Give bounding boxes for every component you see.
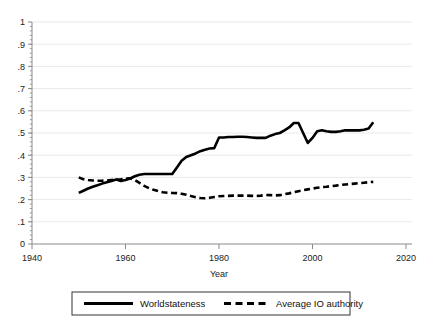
x-tick-label: 1980 (209, 253, 229, 263)
y-tick-label: .4 (17, 151, 25, 161)
y-tick-label: 1 (20, 17, 25, 27)
x-tick-label: 1940 (22, 253, 42, 263)
y-tick-label: .5 (17, 128, 25, 138)
y-tick-label: .3 (17, 173, 25, 183)
legend-label-average-io-authority: Average IO authority (276, 298, 363, 309)
line-chart: 0.1.2.3.4.5.6.7.8.91 1940196019802000202… (0, 0, 421, 325)
legend-label-worldstateness: Worldstateness (140, 298, 206, 309)
y-tick-label: .6 (17, 106, 25, 116)
x-tick-label: 1960 (115, 253, 135, 263)
y-tick-label: .8 (17, 62, 25, 72)
x-tick-label: 2020 (396, 253, 416, 263)
y-tick-label: .1 (17, 217, 25, 227)
y-tick-label: .2 (17, 195, 25, 205)
y-tick-label: .9 (17, 40, 25, 50)
chart-container: 0.1.2.3.4.5.6.7.8.91 1940196019802000202… (0, 0, 421, 325)
chart-legend: Worldstateness Average IO authority (72, 292, 363, 315)
x-tick-label: 2000 (302, 253, 322, 263)
y-tick-label: .7 (17, 84, 25, 94)
y-tick-label: 0 (20, 239, 25, 249)
x-axis-title: Year (210, 269, 228, 279)
